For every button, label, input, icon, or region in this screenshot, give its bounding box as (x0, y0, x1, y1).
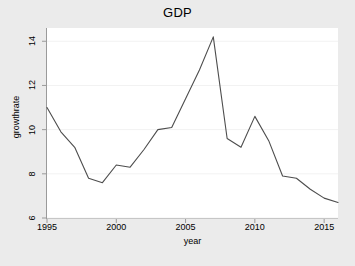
y-tick-label: 12 (22, 79, 42, 91)
x-tick-label: 1995 (27, 222, 67, 234)
chart-container: GDP 68101214 19952000200520102015 growth… (0, 0, 355, 266)
x-tick-label: 2010 (235, 222, 275, 234)
x-tick-label: 2005 (166, 222, 206, 234)
y-axis-title: growthrate (9, 87, 23, 147)
y-tick-label-text: 12 (26, 75, 38, 95)
y-tick-label: 10 (22, 124, 42, 136)
y-tick-label: 14 (22, 35, 42, 47)
x-axis-line (46, 218, 338, 219)
y-tick-label-text: 10 (26, 120, 38, 140)
plot-area (47, 28, 338, 218)
y-tick-label-text: 14 (26, 31, 38, 51)
x-axis-title: year (47, 236, 338, 246)
x-tick-label: 2000 (96, 222, 136, 234)
y-tick-label: 8 (22, 168, 42, 180)
x-tick-label: 2015 (304, 222, 344, 234)
y-axis-line (46, 28, 47, 219)
chart-title: GDP (0, 5, 355, 20)
y-tick-label-text: 8 (26, 164, 38, 184)
